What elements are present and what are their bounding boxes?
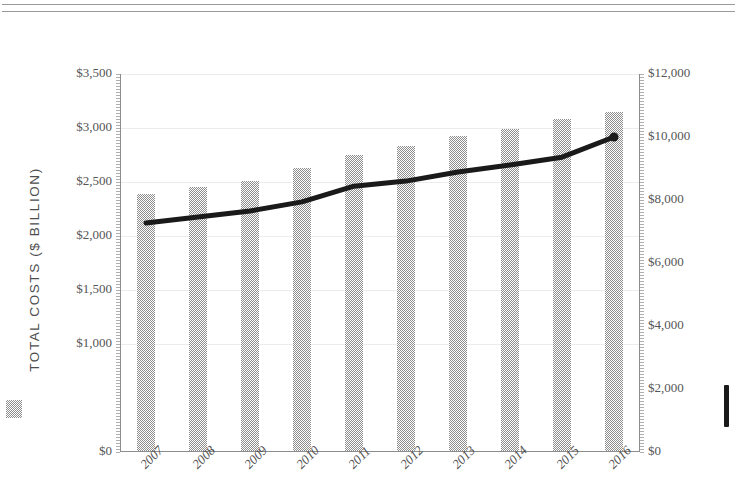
axis-minor-tick — [640, 383, 644, 384]
axis-minor-tick — [640, 140, 644, 141]
top-rule-2 — [2, 11, 735, 12]
axis-minor-tick — [640, 170, 644, 171]
axis-minor-tick — [640, 254, 644, 255]
axis-minor-tick — [640, 248, 644, 249]
axis-minor-tick — [640, 107, 644, 108]
chart-figure: TOTAL COSTS ($ BILLION) COST PER CAPITA … — [0, 0, 737, 500]
left-tick-label: $0 — [99, 443, 112, 459]
left-tick-label: $2,500 — [76, 173, 112, 189]
axis-minor-tick — [640, 206, 644, 207]
axis-minor-tick — [640, 329, 644, 330]
total-costs-legend-swatch — [6, 400, 22, 418]
axis-minor-tick — [640, 377, 644, 378]
axis-minor-tick — [640, 272, 644, 273]
axis-minor-tick — [640, 281, 644, 282]
axis-minor-tick — [640, 284, 644, 285]
axis-minor-tick — [640, 188, 644, 189]
axis-minor-tick — [640, 323, 644, 324]
axis-minor-tick — [640, 293, 644, 294]
axis-minor-tick — [640, 419, 644, 420]
axis-minor-tick — [640, 308, 644, 309]
axis-minor-tick — [640, 332, 644, 333]
axis-minor-tick — [640, 164, 644, 165]
axis-minor-tick — [640, 134, 644, 135]
axis-minor-tick — [640, 314, 644, 315]
left-axis-line — [120, 74, 121, 452]
axis-minor-tick — [640, 251, 644, 252]
axis-minor-tick — [640, 440, 644, 441]
axis-minor-tick — [640, 119, 644, 120]
axis-minor-tick — [640, 422, 644, 423]
axis-minor-tick — [640, 197, 644, 198]
axis-minor-tick — [640, 278, 644, 279]
axis-minor-tick — [640, 389, 644, 390]
axis-minor-tick — [640, 137, 644, 138]
axis-minor-tick — [640, 392, 644, 393]
axis-minor-tick — [640, 143, 644, 144]
axis-minor-tick — [640, 221, 644, 222]
right-tick-label: $4,000 — [648, 317, 684, 333]
axis-minor-tick — [640, 242, 644, 243]
axis-minor-tick — [640, 398, 644, 399]
axis-minor-tick — [640, 335, 644, 336]
left-tick-label: $3,500 — [76, 65, 112, 81]
axis-minor-tick — [640, 443, 644, 444]
axis-minor-tick — [640, 209, 644, 210]
axis-minor-tick — [640, 299, 644, 300]
plot-area — [120, 74, 640, 452]
axis-minor-tick — [640, 89, 644, 90]
left-tick-label: $2,000 — [76, 227, 112, 243]
axis-minor-tick — [640, 365, 644, 366]
cost-per-capita-legend-swatch — [724, 385, 729, 427]
axis-minor-tick — [640, 200, 644, 201]
axis-minor-tick — [640, 428, 644, 429]
axis-minor-tick — [640, 266, 644, 267]
axis-minor-tick — [640, 173, 644, 174]
axis-minor-tick — [640, 263, 644, 264]
axis-minor-tick — [640, 353, 644, 354]
axis-minor-tick — [640, 128, 644, 129]
axis-minor-tick — [640, 92, 644, 93]
axis-minor-tick — [640, 317, 644, 318]
left-tick-label: $1,000 — [76, 335, 112, 351]
cost-per-capita-end-marker — [610, 133, 619, 142]
axis-minor-tick — [640, 305, 644, 306]
axis-minor-tick — [640, 191, 644, 192]
cost-per-capita-line — [146, 137, 614, 223]
axis-minor-tick — [116, 452, 120, 453]
axis-minor-tick — [640, 161, 644, 162]
axis-minor-tick — [640, 80, 644, 81]
axis-minor-tick — [640, 146, 644, 147]
axis-minor-tick — [640, 287, 644, 288]
right-tick-label: $10,000 — [648, 128, 690, 144]
axis-minor-tick — [640, 431, 644, 432]
axis-minor-tick — [640, 203, 644, 204]
axis-minor-tick — [640, 260, 644, 261]
right-axis-line — [639, 74, 640, 452]
axis-minor-tick — [640, 86, 644, 87]
axis-minor-tick — [640, 131, 644, 132]
axis-minor-tick — [640, 95, 644, 96]
axis-minor-tick — [640, 233, 644, 234]
axis-minor-tick — [640, 401, 644, 402]
axis-minor-tick — [640, 179, 644, 180]
axis-minor-tick — [640, 215, 644, 216]
axis-minor-tick — [640, 359, 644, 360]
left-tick-label: $3,000 — [76, 119, 112, 135]
axis-minor-tick — [640, 167, 644, 168]
axis-minor-tick — [640, 113, 644, 114]
axis-minor-tick — [640, 425, 644, 426]
axis-minor-tick — [640, 236, 644, 237]
axis-minor-tick — [640, 449, 644, 450]
axis-minor-tick — [640, 257, 644, 258]
axis-minor-tick — [640, 416, 644, 417]
axis-minor-tick — [640, 437, 644, 438]
axis-minor-tick — [640, 182, 644, 183]
axis-minor-tick — [640, 155, 644, 156]
axis-minor-tick — [640, 380, 644, 381]
axis-minor-tick — [640, 218, 644, 219]
axis-minor-tick — [640, 110, 644, 111]
axis-minor-tick — [640, 74, 644, 75]
axis-minor-tick — [640, 326, 644, 327]
axis-minor-tick — [640, 104, 644, 105]
